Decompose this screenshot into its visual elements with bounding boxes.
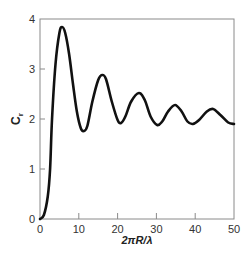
x-tick-label: 0 (37, 223, 43, 235)
y-tick-label: 0 (29, 213, 35, 225)
x-tick-label: 50 (228, 223, 240, 235)
y-tick-label: 3 (29, 63, 35, 75)
x-tick-label: 40 (189, 223, 201, 235)
y-axis-ticks: 01234 (29, 13, 45, 225)
y-tick-label: 2 (29, 113, 35, 125)
chart: 01234 01020304050 Cr 2πR/λ (0, 0, 249, 258)
y-tick-label: 4 (29, 13, 35, 25)
data-series-line (40, 27, 234, 219)
y-tick-label: 1 (29, 163, 35, 175)
x-axis-ticks: 01020304050 (37, 213, 240, 235)
x-tick-label: 10 (73, 223, 85, 235)
y-axis-title: Cr (9, 113, 25, 125)
line-chart: 01234 01020304050 Cr 2πR/λ (0, 0, 249, 258)
y-axis-title-subscript: r (16, 113, 25, 116)
y-axis-title-main: C (9, 116, 23, 125)
svg-text:Cr: Cr (9, 113, 25, 125)
x-axis-title: 2πR/λ (120, 234, 152, 246)
